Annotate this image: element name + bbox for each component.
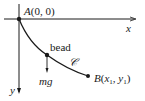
bead-label: bead	[50, 41, 71, 53]
curve-label: 𝒞	[69, 56, 80, 68]
y-axis-label: y	[9, 84, 15, 96]
x-axis-label: x	[125, 22, 131, 34]
gravity-arrowhead-icon	[46, 68, 49, 73]
force-label: mg	[39, 75, 53, 87]
endpoint-b	[86, 74, 90, 78]
y-axis-arrow-icon	[17, 88, 21, 94]
origin-label: A(0, 0)	[23, 5, 55, 18]
endpoint-label: B(x1, y1)	[94, 72, 131, 86]
brachistochrone-diagram: x y A(0, 0) 𝒞 bead mg B(x1, y1)	[0, 0, 145, 101]
